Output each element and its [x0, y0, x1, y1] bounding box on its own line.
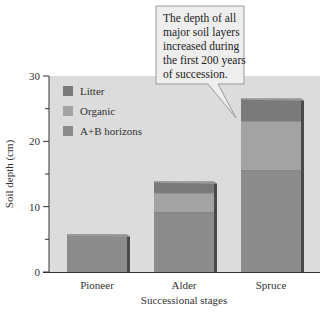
bar-side: [214, 182, 217, 272]
bar-segment-litter: [241, 99, 301, 121]
bar-side: [127, 235, 130, 272]
callout-line: the first 200 years: [163, 54, 246, 67]
legend-label: Litter: [80, 85, 105, 97]
x-tick-labels: PioneerAlderSpruce: [80, 279, 286, 291]
x-axis-title: Successional stages: [141, 294, 227, 306]
legend-swatch: [63, 106, 73, 116]
x-tick-label: Spruce: [256, 279, 287, 291]
bar-segment-a-b-horizons: [241, 170, 301, 272]
y-ticks: 0102030: [29, 70, 49, 278]
y-tick-label: 30: [29, 70, 41, 82]
bar-segment-a-b-horizons: [154, 212, 214, 272]
x-tick-label: Pioneer: [80, 279, 114, 291]
legend-swatch: [63, 126, 73, 136]
bar-side: [301, 99, 304, 272]
y-tick-label: 0: [35, 266, 41, 278]
bar-segment-organic: [154, 193, 214, 212]
y-tick-label: 10: [29, 201, 41, 213]
bar-segment-a-b-horizons: [67, 235, 127, 272]
bar-segment-organic: [241, 121, 301, 170]
chart: 0102030 PioneerAlderSpruce Successional …: [0, 0, 329, 319]
legend-swatch: [63, 86, 73, 96]
y-tick-label: 20: [29, 135, 41, 147]
x-tick-label: Alder: [171, 279, 196, 291]
legend-label: Organic: [80, 105, 115, 117]
callout-line: of succession.: [163, 68, 228, 80]
callout-line: The depth of all: [163, 12, 236, 25]
callout-line: increased during: [163, 40, 240, 53]
y-axis-title: Soil depth (cm): [3, 139, 16, 208]
legend-label: A+B horizons: [80, 125, 142, 137]
callout-line: major soil layers: [163, 26, 240, 39]
